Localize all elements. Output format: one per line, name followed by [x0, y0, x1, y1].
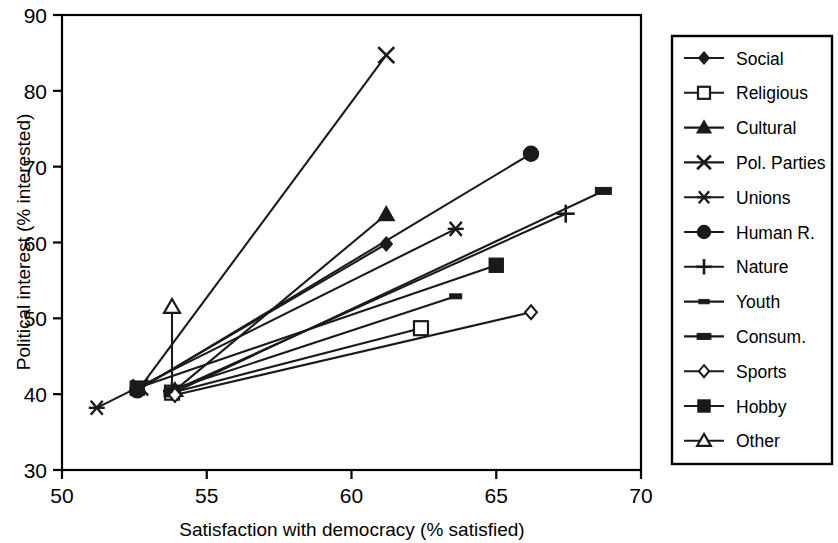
marker-filled-square: [489, 258, 503, 272]
y-tick-label: 40: [24, 383, 47, 406]
legend-item-label: Human R.: [736, 223, 815, 243]
legend-item-label: Youth: [736, 292, 780, 312]
legend-item-label: Unions: [736, 188, 791, 208]
scatter-line-chart: 30405060708090 5055606570 Political inte…: [0, 0, 838, 543]
y-tick-label: 90: [24, 4, 47, 27]
legend-item-label: Consum.: [736, 327, 806, 347]
y-tick-label: 80: [24, 80, 47, 103]
y-tick-label: 30: [24, 459, 47, 482]
legend-item-label: Cultural: [736, 118, 796, 138]
x-tick-label: 50: [50, 484, 73, 507]
marker-filled-square: [698, 400, 710, 412]
marker-filled-circle: [523, 146, 538, 161]
marker-open-square: [698, 87, 710, 99]
marker-filled-circle: [698, 226, 711, 239]
marker-thick-dash: [697, 333, 711, 339]
marker-dash: [450, 294, 462, 299]
legend-item-label: Nature: [736, 257, 789, 277]
x-tick-label: 55: [195, 484, 218, 507]
x-tick-label: 65: [485, 484, 508, 507]
legend-item-label: Social: [736, 49, 784, 69]
x-tick-label: 70: [629, 484, 652, 507]
legend-item-label: Pol. Parties: [736, 153, 826, 173]
y-axis-label: Political interest (% interested): [13, 114, 34, 371]
chart-canvas: 30405060708090 5055606570 Political inte…: [0, 0, 838, 543]
x-axis-label: Satisfaction with democracy (% satisfied…: [179, 519, 524, 540]
legend-item-label: Hobby: [736, 397, 787, 417]
x-tick-label: 60: [340, 484, 363, 507]
legend-item-label: Religious: [736, 83, 808, 103]
legend-item-label: Sports: [736, 362, 787, 382]
chart-background: [0, 0, 838, 543]
marker-thick-dash: [595, 187, 611, 194]
marker-dash: [699, 299, 709, 303]
marker-open-square: [414, 321, 428, 335]
legend-item-label: Other: [736, 431, 780, 451]
marker-filled-square: [130, 381, 144, 395]
